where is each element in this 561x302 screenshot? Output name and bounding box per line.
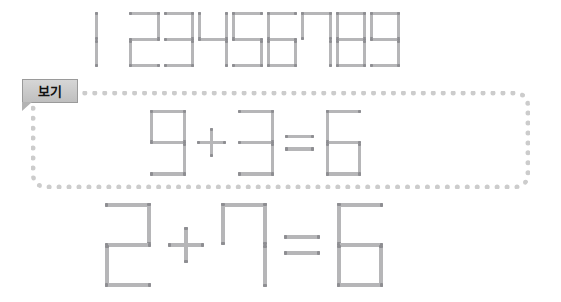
matchstick-segment-g bbox=[337, 243, 383, 247]
problem-equation[interactable] bbox=[105, 203, 383, 287]
matchstick-segment-c bbox=[329, 40, 332, 68]
matchstick-segment-c bbox=[358, 143, 361, 176]
matchstick-digit-3 bbox=[238, 110, 274, 176]
matchstick-segment-g bbox=[336, 38, 366, 41]
matchstick-segment-e bbox=[326, 143, 329, 176]
matchstick-digit-3 bbox=[164, 12, 194, 67]
matchstick-segment-g bbox=[164, 38, 194, 41]
matchstick-equals-bar-1 bbox=[285, 135, 314, 138]
matchstick-segment-c bbox=[183, 143, 186, 176]
matchstick-segment-d bbox=[238, 172, 274, 175]
matchstick-digit-6 bbox=[337, 203, 383, 287]
matchstick-segment-a bbox=[232, 12, 262, 15]
matchstick-segment-e bbox=[267, 40, 270, 68]
matchstick-segment-b bbox=[157, 12, 160, 40]
matchstick-segment-b bbox=[397, 12, 400, 40]
matchstick-segment-c bbox=[191, 40, 194, 68]
matchstick-segment-c bbox=[294, 40, 297, 68]
matchstick-segment-d bbox=[164, 64, 194, 67]
matchstick-segment-c bbox=[271, 143, 274, 176]
example-label-tail-icon bbox=[22, 102, 32, 111]
matchstick-segment-g bbox=[267, 38, 297, 41]
example-equation bbox=[150, 110, 361, 176]
matchstick-segment-b bbox=[191, 12, 194, 40]
matchstick-segment-a bbox=[150, 110, 186, 113]
matchstick-segment-g bbox=[129, 38, 159, 41]
matchstick-segment-f bbox=[326, 110, 329, 143]
matchstick-segment-d bbox=[150, 172, 186, 175]
matchstick-segment-e bbox=[336, 40, 339, 68]
matchstick-segment-c bbox=[379, 245, 383, 287]
matchstick-segment-f bbox=[198, 12, 201, 40]
matchstick-segment-a bbox=[164, 12, 194, 15]
matchstick-plus-vertical bbox=[184, 227, 188, 264]
matchstick-segment-a bbox=[238, 110, 274, 113]
matchstick-segment-g bbox=[105, 243, 151, 247]
matchstick-segment-e bbox=[129, 40, 132, 68]
matchstick-operator-plus bbox=[194, 110, 230, 176]
matchstick-segment-d bbox=[129, 64, 159, 67]
matchstick-segment-d bbox=[337, 283, 383, 287]
matchstick-segment-e bbox=[337, 245, 341, 287]
matchstick-segment-d bbox=[232, 64, 262, 67]
matchstick-equals-bar-2 bbox=[284, 251, 321, 255]
matchstick-segment-a bbox=[370, 12, 400, 15]
matchstick-segment-f bbox=[337, 203, 341, 245]
matchstick-segment-g bbox=[198, 38, 228, 41]
matchstick-digit-4 bbox=[198, 12, 228, 67]
matchstick-segment-a bbox=[267, 12, 297, 15]
matchstick-segment-c bbox=[260, 40, 263, 68]
example-label-tab: 보기 bbox=[22, 79, 78, 103]
matchstick-segment-f bbox=[150, 110, 153, 143]
matchstick-segment-b bbox=[147, 203, 151, 245]
matchstick-segment-f bbox=[336, 12, 339, 40]
matchstick-digit-7 bbox=[221, 203, 267, 287]
matchstick-segment-f bbox=[95, 12, 98, 40]
matchstick-operator-plus bbox=[163, 203, 209, 287]
matchstick-equals-bar-2 bbox=[285, 147, 314, 150]
matchstick-segment-a bbox=[337, 203, 383, 207]
matchstick-segment-d bbox=[370, 64, 400, 67]
matchstick-segment-b bbox=[363, 12, 366, 40]
matchstick-segment-a bbox=[326, 110, 362, 113]
matchstick-digit-6 bbox=[267, 12, 297, 67]
matchstick-segment-g bbox=[232, 38, 262, 41]
matchstick-segment-f bbox=[301, 12, 304, 40]
matchstick-digit-7 bbox=[301, 12, 331, 67]
matchstick-segment-b bbox=[225, 12, 228, 40]
matchstick-digit-1 bbox=[95, 12, 125, 67]
matchstick-digit-2 bbox=[129, 12, 159, 67]
matchstick-segment-a bbox=[336, 12, 366, 15]
matchstick-digit-9 bbox=[370, 12, 400, 67]
matchstick-digit-6 bbox=[326, 110, 362, 176]
matchstick-segment-c bbox=[263, 245, 267, 287]
matchstick-segment-g bbox=[238, 141, 274, 144]
matchstick-digit-9 bbox=[150, 110, 186, 176]
matchstick-segment-d bbox=[326, 172, 362, 175]
matchstick-segment-c bbox=[397, 40, 400, 68]
matchstick-segment-g bbox=[326, 141, 362, 144]
reference-digit-row bbox=[95, 12, 401, 67]
matchstick-segment-f bbox=[370, 12, 373, 40]
matchstick-plus-vertical bbox=[210, 128, 213, 157]
matchstick-segment-b bbox=[263, 203, 267, 245]
matchstick-digit-2 bbox=[105, 203, 151, 287]
matchstick-segment-b bbox=[329, 12, 332, 40]
matchstick-segment-d bbox=[267, 64, 297, 67]
matchstick-segment-d bbox=[105, 283, 151, 287]
example-label-text: 보기 bbox=[38, 85, 62, 98]
matchstick-segment-f bbox=[267, 12, 270, 40]
matchstick-segment-e bbox=[95, 40, 98, 68]
matchstick-segment-a bbox=[221, 203, 267, 207]
matchstick-segment-f bbox=[221, 203, 225, 245]
matchstick-segment-a bbox=[301, 12, 331, 15]
matchstick-segment-a bbox=[105, 203, 151, 207]
matchstick-segment-e bbox=[105, 245, 109, 287]
matchstick-segment-b bbox=[183, 110, 186, 143]
matchstick-segment-b bbox=[271, 110, 274, 143]
matchstick-segment-g bbox=[150, 141, 186, 144]
matchstick-digit-5 bbox=[232, 12, 262, 67]
matchstick-segment-g bbox=[370, 38, 400, 41]
matchstick-operator-equals bbox=[279, 203, 325, 287]
matchstick-segment-d bbox=[336, 64, 366, 67]
